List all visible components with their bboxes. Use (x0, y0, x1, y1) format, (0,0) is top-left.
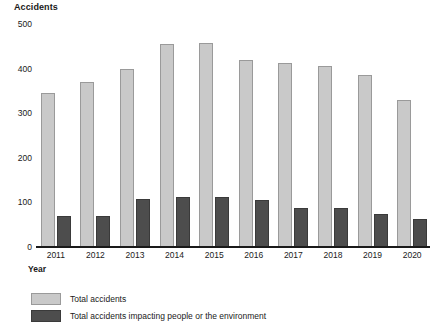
bar-impacting-accidents (413, 219, 427, 247)
y-axis-tick-labels: 0100200300400500 (0, 24, 32, 247)
x-tick-label: 2015 (194, 250, 234, 264)
bar-total-accidents (358, 75, 372, 247)
bar-total-accidents (199, 43, 213, 247)
bar-group (76, 24, 116, 247)
bar-group (36, 24, 76, 247)
x-axis-tick-labels: 2011201220132014201520162017201820192020 (36, 250, 432, 264)
bar-impacting-accidents (294, 208, 308, 247)
bar-total-accidents (120, 69, 134, 247)
x-tick-label: 2012 (76, 250, 116, 264)
bar-group (353, 24, 393, 247)
accidents-bar-chart: Accidents 0100200300400500 2011201220132… (0, 0, 436, 336)
x-tick-label: 2016 (234, 250, 274, 264)
x-tick-label: 2019 (353, 250, 393, 264)
bar-total-accidents (160, 44, 174, 247)
x-tick-label: 2020 (392, 250, 432, 264)
x-axis-title: Year (28, 264, 46, 274)
legend-label: Total accidents impacting people or the … (70, 311, 266, 321)
legend-label: Total accidents (70, 294, 126, 304)
bar-total-accidents (80, 82, 94, 247)
x-tick-label: 2017 (274, 250, 314, 264)
y-axis-title: Accidents (14, 2, 58, 12)
bar-impacting-accidents (136, 199, 150, 247)
bar-impacting-accidents (334, 208, 348, 247)
bar-groups (36, 24, 432, 247)
bar-total-accidents (41, 93, 55, 247)
bar-impacting-accidents (176, 197, 190, 247)
bar-group (234, 24, 274, 247)
bar-group (392, 24, 432, 247)
bar-group (115, 24, 155, 247)
legend-item: Total accidents impacting people or the … (31, 307, 431, 324)
y-tick-label: 0 (2, 242, 32, 252)
bar-total-accidents (397, 100, 411, 247)
bar-group (313, 24, 353, 247)
legend-swatch (31, 310, 61, 322)
y-tick-label: 400 (2, 64, 32, 74)
y-tick-label: 300 (2, 108, 32, 118)
x-tick-label: 2013 (115, 250, 155, 264)
bar-impacting-accidents (374, 214, 388, 247)
bar-group (155, 24, 195, 247)
bar-group (194, 24, 234, 247)
bar-impacting-accidents (215, 197, 229, 247)
bar-impacting-accidents (96, 216, 110, 247)
y-tick-label: 200 (2, 153, 32, 163)
y-tick-label: 100 (2, 197, 32, 207)
bar-impacting-accidents (255, 200, 269, 247)
bar-impacting-accidents (57, 216, 71, 247)
x-axis-line (36, 246, 430, 248)
y-tick-label: 500 (2, 19, 32, 29)
legend-item: Total accidents (31, 290, 431, 307)
x-tick-label: 2014 (155, 250, 195, 264)
bar-total-accidents (239, 60, 253, 247)
bar-total-accidents (278, 63, 292, 247)
bar-group (274, 24, 314, 247)
chart-legend: Total accidentsTotal accidents impacting… (31, 290, 431, 324)
legend-swatch (31, 293, 61, 305)
x-tick-label: 2011 (36, 250, 76, 264)
x-tick-label: 2018 (313, 250, 353, 264)
bar-total-accidents (318, 66, 332, 247)
